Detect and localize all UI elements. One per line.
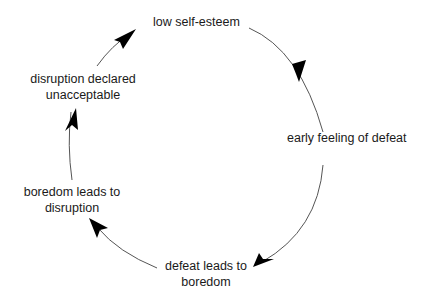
node-label: low self-esteem — [153, 14, 240, 30]
node-label-line1: defeat leads to — [156, 258, 256, 274]
node-label-line1: disruption declared — [28, 71, 138, 87]
arrow-n3-n4 — [98, 228, 157, 268]
node-low-self-esteem: low self-esteem — [153, 14, 240, 30]
node-defeat-leads-to-boredom: defeat leads to boredom — [156, 258, 256, 290]
node-label-line1: boredom leads to — [22, 184, 122, 200]
arrow-n2-n3 — [262, 165, 323, 262]
arrowhead-icon — [65, 108, 78, 131]
node-label-line2: disruption — [22, 200, 122, 216]
node-label-line2: unacceptable — [28, 87, 138, 103]
node-label: early feeling of defeat — [287, 130, 407, 146]
arrowhead-icon — [114, 29, 136, 49]
cycle-arrows — [0, 0, 426, 298]
arrowhead-icon — [292, 60, 306, 82]
node-disruption-declared-unacceptable: disruption declared unacceptable — [28, 71, 138, 103]
arrowhead-icon — [89, 218, 108, 238]
arrowhead-icon — [253, 253, 274, 267]
arrow-n1-n2 — [249, 28, 323, 132]
node-label-line2: boredom — [156, 274, 256, 290]
node-early-feeling-of-defeat: early feeling of defeat — [287, 130, 407, 146]
node-boredom-leads-to-disruption: boredom leads to disruption — [22, 184, 122, 216]
